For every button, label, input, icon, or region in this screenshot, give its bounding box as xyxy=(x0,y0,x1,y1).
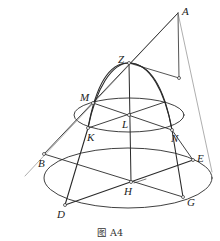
point-E xyxy=(192,159,195,162)
label-H: H xyxy=(123,185,133,197)
figure-caption: 图 A4 xyxy=(97,227,123,238)
point-K xyxy=(87,127,90,130)
chord-B-G xyxy=(44,154,183,197)
label-G: G xyxy=(187,196,195,208)
label-M: M xyxy=(79,91,90,103)
point-H xyxy=(130,181,133,184)
point-D xyxy=(64,204,67,207)
label-N: N xyxy=(170,132,179,144)
point-axis xyxy=(178,77,181,80)
label-A: A xyxy=(181,5,189,17)
label-B: B xyxy=(38,157,45,169)
label-L: L xyxy=(121,118,128,130)
point-B xyxy=(43,153,46,156)
vertical-from-A xyxy=(178,13,179,78)
cone-generator-left xyxy=(44,13,178,154)
label-E: E xyxy=(196,152,204,164)
label-K: K xyxy=(86,131,95,143)
point-Z xyxy=(128,62,131,65)
point-L xyxy=(128,114,131,117)
cone-generator-right xyxy=(178,13,212,172)
point-M xyxy=(92,102,95,105)
cone-parabola-diagram: AZMKLNBEHDG 图 A4 xyxy=(0,0,220,241)
point-G xyxy=(182,196,185,199)
label-D: D xyxy=(56,208,65,220)
chord-M-N xyxy=(93,103,172,130)
label-Z: Z xyxy=(118,53,125,65)
Z-to-axis-point xyxy=(129,63,179,78)
line-ZH xyxy=(129,63,131,182)
